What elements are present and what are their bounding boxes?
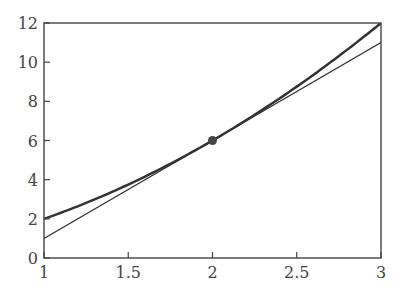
tangent-point-marker	[208, 136, 217, 145]
y-tick-label: 0	[28, 249, 38, 268]
plot-lines	[44, 23, 381, 238]
y-tick-label: 10	[18, 53, 38, 72]
x-tick-label: 3	[376, 263, 386, 282]
y-tick-label: 12	[18, 14, 38, 33]
y-tick-label: 8	[28, 92, 38, 111]
x-tick-label: 2.5	[284, 263, 309, 282]
x-tick-label: 2	[207, 263, 217, 282]
chart: 11.522.53024681012	[0, 0, 403, 294]
y-tick-label: 6	[28, 132, 38, 151]
chart-svg: 11.522.53024681012	[0, 0, 403, 294]
y-tick-label: 4	[28, 171, 38, 190]
curve-line	[44, 23, 381, 219]
x-tick-label: 1	[39, 263, 49, 282]
x-tick-label: 1.5	[116, 263, 141, 282]
y-tick-label: 2	[28, 210, 38, 229]
